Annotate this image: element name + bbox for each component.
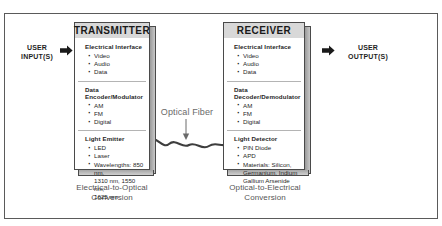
receiver-section-light-detector: Light Detector PIN Diode APD Materials: … bbox=[224, 130, 304, 189]
user-input-label-line1: USER bbox=[14, 44, 60, 53]
receiver-sections: Electrical Interface Video Audio Data Da… bbox=[224, 38, 304, 169]
section-bullet-list: LED Laser Wavelengths: 850 nm, 1310 nm, … bbox=[85, 144, 145, 201]
section-bullet-list: Video Audio Data bbox=[85, 52, 145, 77]
transmitter-section-light-emitter: Light Emitter LED Laser Wavelengths: 850… bbox=[75, 130, 149, 205]
fiber-optic-system-diagram: USER INPUT(S) TRANSMITTER Electrical Int… bbox=[0, 0, 442, 226]
transmitter-section-data-encoder: Data Encoder/Modulator AM FM Digital bbox=[75, 81, 149, 131]
section-bullet-list: AM FM Digital bbox=[234, 102, 300, 127]
list-item-continuation: Germanium, Indium bbox=[234, 169, 300, 177]
list-item: Materials: Silicon, bbox=[234, 161, 300, 169]
section-heading: Data Decoder/Demodulator bbox=[234, 86, 300, 100]
list-item: AM bbox=[85, 102, 145, 110]
list-item-continuation: 1625 nm bbox=[85, 193, 145, 201]
list-item: Wavelengths: 850 nm, bbox=[85, 161, 145, 177]
list-item: FM bbox=[234, 110, 300, 118]
receiver-section-electrical-interface: Electrical Interface Video Audio Data bbox=[224, 38, 304, 81]
transmitter-box-side-bevel bbox=[150, 26, 156, 174]
section-bullet-list: PIN Diode APD Materials: Silicon, German… bbox=[234, 144, 300, 185]
section-heading: Electrical Interface bbox=[234, 43, 300, 50]
receiver-title: RECEIVER bbox=[224, 23, 304, 38]
transmitter-title: TRANSMITTER bbox=[75, 23, 149, 38]
list-item-continuation: 1310 nm, 1550 nm, bbox=[85, 177, 145, 193]
list-item: LED bbox=[85, 144, 145, 152]
list-item-continuation: Gallium Arsenide bbox=[234, 177, 300, 185]
transmitter-section-electrical-interface: Electrical Interface Video Audio Data bbox=[75, 38, 149, 81]
list-item: AM bbox=[234, 102, 300, 110]
list-item: Data bbox=[85, 68, 145, 76]
list-item: PIN Diode bbox=[234, 144, 300, 152]
wavy-line-icon bbox=[148, 133, 228, 157]
list-item: FM bbox=[85, 110, 145, 118]
optical-fiber-label: Optical Fiber bbox=[155, 107, 219, 117]
list-item: Audio bbox=[234, 60, 300, 68]
section-heading: Light Emitter bbox=[85, 135, 145, 142]
receiver-section-data-decoder: Data Decoder/Demodulator AM FM Digital bbox=[224, 81, 304, 131]
list-item: Digital bbox=[85, 118, 145, 126]
user-input-label-line2: INPUT(S) bbox=[14, 53, 60, 62]
user-input-label: USER INPUT(S) bbox=[14, 44, 60, 61]
receiver-box-side-bevel bbox=[305, 26, 311, 174]
user-output-label: USER OUTPUT(S) bbox=[340, 44, 396, 61]
section-heading: Data Encoder/Modulator bbox=[85, 86, 145, 100]
transmitter-box: TRANSMITTER Electrical Interface Video A… bbox=[74, 22, 150, 170]
list-item: Digital bbox=[234, 118, 300, 126]
list-item: APD bbox=[234, 152, 300, 160]
transmitter-sections: Electrical Interface Video Audio Data Da… bbox=[75, 38, 149, 169]
section-bullet-list: AM FM Digital bbox=[85, 102, 145, 127]
list-item: Video bbox=[234, 52, 300, 60]
user-output-label-line2: OUTPUT(S) bbox=[340, 53, 396, 62]
section-heading: Electrical Interface bbox=[85, 43, 145, 50]
right-arrow-icon bbox=[60, 45, 73, 56]
section-heading: Light Detector bbox=[234, 135, 300, 142]
receiver-caption-line2: Conversion bbox=[196, 193, 334, 203]
section-bullet-list: Video Audio Data bbox=[234, 52, 300, 77]
receiver-box: RECEIVER Electrical Interface Video Audi… bbox=[223, 22, 305, 170]
list-item: Audio bbox=[85, 60, 145, 68]
user-output-label-line1: USER bbox=[340, 44, 396, 53]
right-arrow-icon bbox=[322, 45, 335, 56]
list-item: Laser bbox=[85, 152, 145, 160]
list-item: Video bbox=[85, 52, 145, 60]
list-item: Data bbox=[234, 68, 300, 76]
